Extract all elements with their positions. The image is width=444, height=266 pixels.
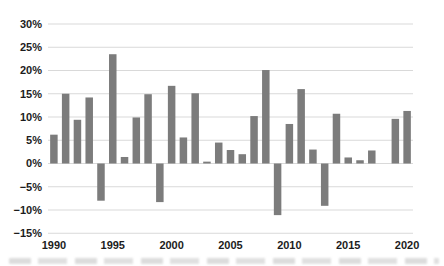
x-tick-label: 2010 <box>277 239 301 251</box>
bar-2017 <box>368 150 376 163</box>
x-tick-label: 1990 <box>42 239 66 251</box>
bar-2002 <box>191 93 199 163</box>
y-tick-label: 5% <box>26 134 42 146</box>
bar-2010 <box>286 124 294 164</box>
x-tick-label: 2000 <box>159 239 183 251</box>
bar-2004 <box>215 143 223 164</box>
bar-2009 <box>274 164 282 216</box>
bar-chart: 30%25%20%15%10%5%0%−5%−10%−15%1990199520… <box>0 0 444 266</box>
y-tick-label: 15% <box>20 88 42 100</box>
bar-2019 <box>392 119 400 164</box>
bar-2011 <box>297 89 305 163</box>
bar-2003 <box>203 162 211 164</box>
x-tick-label: 2015 <box>336 239 360 251</box>
bar-2000 <box>168 86 176 164</box>
y-tick-label: −10% <box>14 204 43 216</box>
bar-2014 <box>333 114 341 164</box>
bar-1991 <box>62 94 70 164</box>
bar-2012 <box>309 150 317 164</box>
bar-2016 <box>356 160 364 163</box>
y-tick-label: 10% <box>20 111 42 123</box>
bar-2007 <box>250 116 257 163</box>
bar-2020 <box>403 111 411 164</box>
bar-2006 <box>239 154 247 163</box>
y-tick-label: −15% <box>14 227 43 239</box>
bar-2015 <box>344 157 352 163</box>
y-tick-label: 25% <box>20 41 42 53</box>
cropped-caption-strip <box>9 258 439 264</box>
bar-2005 <box>227 150 235 163</box>
bar-1992 <box>74 120 82 164</box>
chart-figure: 30%25%20%15%10%5%0%−5%−10%−15%1990199520… <box>0 0 444 266</box>
x-tick-label: 1995 <box>101 239 125 251</box>
y-tick-label: 20% <box>20 64 42 76</box>
y-tick-label: 30% <box>20 18 42 30</box>
bar-1995 <box>109 54 117 163</box>
bar-1990 <box>50 135 58 164</box>
bar-2001 <box>180 137 188 163</box>
bar-1999 <box>156 164 164 203</box>
x-tick-label: 2020 <box>395 239 419 251</box>
bar-2013 <box>321 164 329 206</box>
bar-1996 <box>121 157 129 164</box>
y-tick-label: 0% <box>26 157 42 169</box>
y-tick-label: −5% <box>20 181 43 193</box>
bar-1998 <box>144 94 152 163</box>
x-tick-label: 2005 <box>218 239 242 251</box>
bar-1997 <box>133 117 141 163</box>
bar-1994 <box>97 164 105 201</box>
bar-1993 <box>85 97 93 163</box>
bar-2008 <box>262 70 270 163</box>
